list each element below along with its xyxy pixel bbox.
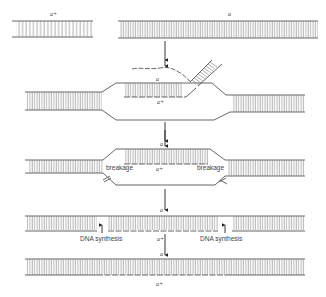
- step5-group: a a+: [25, 251, 305, 287]
- step3-group: breakage breakage a a+: [25, 130, 305, 210]
- label-a-step3: a: [160, 141, 163, 147]
- breakage-label-right: breakage: [197, 164, 224, 172]
- step4-group: DNA synthesis DNA synthesis a a+: [25, 207, 305, 255]
- label-a-step1: a: [228, 11, 231, 17]
- step1-group: a+ a: [12, 11, 318, 60]
- breakage-label-left: breakage: [106, 164, 133, 172]
- dna-synthesis-label-left: DNA synthesis: [80, 235, 123, 243]
- label-a-plus-step2: a+: [157, 99, 164, 105]
- branch-helix: [190, 60, 222, 86]
- label-a-step4: a: [160, 207, 163, 213]
- label-a-step2: a: [156, 76, 159, 82]
- displaced-strand: [132, 67, 191, 82]
- label-a-plus-step5: a+: [156, 281, 163, 287]
- a-plus-duplex-fragment: [12, 21, 93, 37]
- dna-synthesis-label-right: DNA synthesis: [200, 235, 243, 243]
- label-a-plus-step3: a+: [156, 166, 163, 172]
- label-a-plus-step4: a+: [157, 236, 164, 242]
- breakage-mark-right-icon: [219, 178, 227, 184]
- label-a-plus-step1: a+: [50, 11, 57, 17]
- label-a-step5: a: [160, 251, 163, 257]
- recombination-diagram: a+ a: [0, 0, 326, 297]
- step2-group: a a+: [25, 60, 305, 141]
- a-duplex: [118, 21, 318, 38]
